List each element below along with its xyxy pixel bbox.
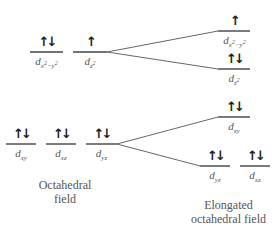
label-elong-dxz: dxz xyxy=(240,169,270,184)
label-oct-dz2: dz2 xyxy=(73,55,107,70)
electron-pair-icon: ↑↓ xyxy=(6,126,36,141)
label-elong-dxy: dxy xyxy=(218,120,250,135)
caption-elongated: Elongated octahedral field xyxy=(180,198,277,226)
electron-pair-icon: ↑↓ xyxy=(218,51,250,66)
electron-pair-icon: ↑↓ xyxy=(46,126,76,141)
electron-up-icon: ↑ xyxy=(218,13,250,28)
label-oct-dxz: dxz xyxy=(46,147,76,162)
electron-pair-icon: ↑↓ xyxy=(30,34,63,49)
label-oct-dxy: dxy xyxy=(6,147,36,162)
connector-eg-down xyxy=(107,52,218,69)
electron-pair-icon: ↑↓ xyxy=(218,99,250,114)
electron-pair-icon: ↑↓ xyxy=(86,126,117,141)
label-elong-dz2: dz2 xyxy=(218,72,250,87)
connector-t2g-down xyxy=(117,144,200,166)
label-elong-dx2y2: dx2−y2 xyxy=(216,34,253,49)
connector-t2g-up xyxy=(117,117,218,144)
label-oct-dyz: dyz xyxy=(86,147,117,162)
connector-eg-up xyxy=(107,31,218,52)
label-elong-dyz: dyz xyxy=(200,169,230,184)
electron-pair-icon: ↑↓ xyxy=(200,148,230,163)
caption-octahedral: Octahedral field xyxy=(20,178,110,206)
label-oct-dx2y2: dx2−y2 xyxy=(28,55,65,70)
electron-pair-icon: ↑↓ xyxy=(240,148,270,163)
electron-up-icon: ↑ xyxy=(73,34,107,49)
